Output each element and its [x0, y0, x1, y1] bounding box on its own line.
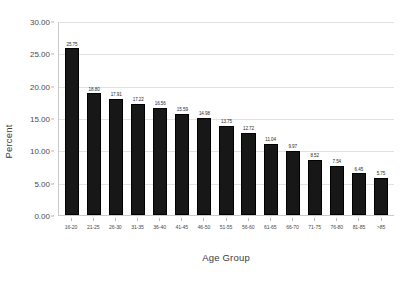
x-axis-tick: 56-60	[237, 218, 259, 236]
bar-rect[interactable]	[175, 114, 189, 215]
bar-item[interactable]: 12.72	[238, 22, 260, 215]
bar-item[interactable]: 15.59	[171, 22, 193, 215]
bar-rect[interactable]	[241, 133, 255, 215]
y-axis-tickmark	[51, 86, 54, 87]
bar-item[interactable]: 6.45	[348, 22, 370, 215]
y-axis-tickmark	[51, 183, 54, 184]
bar-value-label: 6.45	[355, 168, 364, 173]
y-axis-tickmark	[51, 216, 54, 217]
x-axis-tickmark	[93, 218, 94, 221]
bar-item[interactable]: 5.75	[370, 22, 392, 215]
bar-value-label: 17.91	[111, 93, 122, 98]
y-axis-tickmark	[51, 151, 54, 152]
bar-value-label: 8.52	[310, 154, 319, 159]
y-axis-tick-label: 5.00	[34, 179, 50, 188]
bar-rect[interactable]	[87, 93, 101, 215]
y-axis-tickmark	[51, 22, 54, 23]
bar-value-label: 5.75	[377, 172, 386, 177]
x-axis-tick-label: 46-50	[198, 224, 211, 230]
x-axis-tick: 26-30	[104, 218, 126, 236]
bar-value-label: 11.04	[265, 138, 276, 143]
x-axis-tick-label: 36-40	[153, 224, 166, 230]
bar-item[interactable]: 18.80	[83, 22, 105, 215]
bar-rect[interactable]	[330, 166, 344, 215]
y-axis-tickmark	[51, 54, 54, 55]
bar-series: 25.7518.8017.9117.2216.5615.5914.9813.75…	[59, 22, 394, 215]
y-axis-tickmark	[51, 119, 54, 120]
bar-value-label: 17.22	[133, 98, 144, 103]
bar-value-label: 16.56	[155, 102, 166, 107]
bar-rect[interactable]	[219, 126, 233, 215]
bar-rect[interactable]	[264, 144, 278, 215]
bar-rect[interactable]	[109, 99, 123, 215]
x-axis-title: Age Group	[58, 252, 394, 263]
bar-item[interactable]: 7.54	[326, 22, 348, 215]
bar-item[interactable]: 14.98	[193, 22, 215, 215]
x-axis-tick: 71-75	[304, 218, 326, 236]
bar-rect[interactable]	[153, 108, 167, 215]
x-axis-tick-labels: 16-2021-2526-3031-3536-4041-4546-5051-55…	[58, 218, 394, 236]
y-axis-title: Percent	[0, 0, 16, 283]
y-axis-tick-label: 15.00	[30, 115, 50, 124]
bar-value-label: 25.75	[67, 43, 78, 48]
bar-rect[interactable]	[65, 48, 79, 215]
bar-item[interactable]: 17.91	[105, 22, 127, 215]
y-axis-tick-label: 30.00	[30, 18, 50, 27]
x-axis-tickmark	[181, 218, 182, 221]
bar-rect[interactable]	[197, 118, 211, 215]
x-axis-tickmark	[358, 218, 359, 221]
x-axis-tick: 81-85	[348, 218, 370, 236]
x-axis-tick: 41-45	[171, 218, 193, 236]
x-axis-tickmark	[270, 218, 271, 221]
x-axis-tick-label: 81-85	[353, 224, 366, 230]
bar-item[interactable]: 25.75	[61, 22, 83, 215]
bar-item[interactable]: 13.75	[215, 22, 237, 215]
bar-item[interactable]: 11.04	[260, 22, 282, 215]
bar-rect[interactable]	[131, 104, 145, 215]
x-axis-tickmark	[226, 218, 227, 221]
x-axis-tickmark	[203, 218, 204, 221]
bar-rect[interactable]	[286, 151, 300, 215]
x-axis-tickmark	[314, 218, 315, 221]
x-axis-tickmark	[292, 218, 293, 221]
bar-rect[interactable]	[308, 160, 322, 215]
bar-item[interactable]: 8.52	[304, 22, 326, 215]
y-axis-tick-label: 25.00	[30, 50, 50, 59]
x-axis-tickmark	[381, 218, 382, 221]
x-axis-tick-label: 71-75	[308, 224, 321, 230]
bar-value-label: 15.59	[177, 108, 188, 113]
x-axis-tick-label: 41-45	[176, 224, 189, 230]
x-axis-tickmark	[115, 218, 116, 221]
x-axis-tick-label: 26-30	[109, 224, 122, 230]
bar-item[interactable]: 9.97	[282, 22, 304, 215]
x-axis-tick-label: 56-60	[242, 224, 255, 230]
x-axis-tickmark	[71, 218, 72, 221]
bar-value-label: 12.72	[243, 127, 254, 132]
x-axis-tick: 31-35	[126, 218, 148, 236]
x-axis-tick-label: 66-70	[286, 224, 299, 230]
bar-item[interactable]: 16.56	[149, 22, 171, 215]
x-axis-tick: 16-20	[60, 218, 82, 236]
bar-item[interactable]: 17.22	[127, 22, 149, 215]
x-axis-tick-label: 51-55	[220, 224, 233, 230]
bar-value-label: 14.98	[199, 112, 210, 117]
x-axis-tick-label: >85	[377, 224, 385, 230]
x-axis-tick-label: 21-25	[87, 224, 100, 230]
x-axis-tick: >85	[370, 218, 392, 236]
bar-rect[interactable]	[374, 178, 388, 215]
bar-rect[interactable]	[352, 173, 366, 215]
x-axis-tickmark	[336, 218, 337, 221]
bar-value-label: 7.54	[333, 160, 342, 165]
x-axis-tick: 76-80	[326, 218, 348, 236]
x-axis-tick-label: 16-20	[65, 224, 78, 230]
y-axis-tick-label: 10.00	[30, 147, 50, 156]
x-axis-tick: 36-40	[149, 218, 171, 236]
y-axis-tick-label: 20.00	[30, 82, 50, 91]
x-axis-tick-label: 76-80	[330, 224, 343, 230]
bar-value-label: 18.80	[89, 88, 100, 93]
x-axis-tick: 51-55	[215, 218, 237, 236]
plot-area: 25.7518.8017.9117.2216.5615.5914.9813.75…	[58, 22, 394, 216]
x-axis-tick: 66-70	[281, 218, 303, 236]
x-axis-tick: 46-50	[193, 218, 215, 236]
y-axis-tick-label: 0.00	[34, 212, 50, 221]
